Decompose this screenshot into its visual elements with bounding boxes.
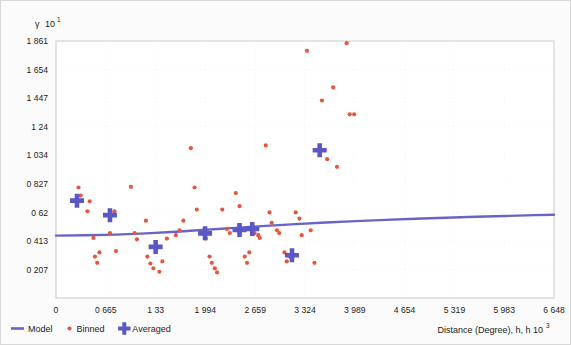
binned-point [135, 237, 139, 241]
binned-point [95, 261, 99, 265]
binned-point [215, 270, 219, 274]
x-tick-label: 4 654 [394, 305, 416, 315]
x-tick-label: 6 648 [543, 305, 565, 315]
y-tick-label: 1 24 [31, 122, 48, 132]
binned-point [108, 231, 112, 235]
binned-point [165, 237, 169, 241]
binned-point [192, 185, 196, 189]
y-tick-label: 1 034 [26, 150, 48, 160]
legend-label: Model [28, 324, 53, 334]
binned-point [151, 266, 155, 270]
plot-container: 00 6651 331 9942 6593 3243 9894 6545 319… [1, 1, 570, 344]
x-tick-label: 3 324 [294, 305, 316, 315]
binned-point [133, 231, 137, 235]
y-tick-label: 1 861 [26, 36, 48, 46]
binned-point [195, 208, 199, 212]
y-axis-title: γ [35, 19, 40, 29]
binned-point [237, 204, 241, 208]
binned-point [300, 233, 304, 237]
x-axis-title: Distance (Degree), h, h 10 [437, 325, 543, 335]
binned-point [345, 41, 349, 45]
binned-point [181, 219, 185, 223]
binned-point [331, 85, 335, 89]
binned-point [112, 209, 116, 213]
binned-point [297, 216, 301, 220]
y-axis-scale: 10 [45, 19, 55, 29]
binned-point [270, 221, 274, 225]
x-tick-label: 5 319 [444, 305, 466, 315]
binned-point [277, 231, 281, 235]
y-axis-tick-labels: 0 2070 4130 620 8271 0341 241 4471 6541 … [26, 36, 48, 274]
binned-point [348, 112, 352, 116]
variogram-plot: 00 6651 331 9942 6593 3243 9894 6545 319… [1, 1, 571, 345]
y-tick-label: 1 447 [26, 93, 48, 103]
y-tick-label: 0 62 [31, 208, 48, 218]
x-tick-label: 0 [54, 305, 59, 315]
variogram-chart-window: 00 6651 331 9942 6593 3243 9894 6545 319… [0, 0, 571, 345]
binned-point [294, 210, 298, 214]
binned-point [305, 49, 309, 53]
binned-point [267, 210, 271, 214]
binned-point [312, 261, 316, 265]
binned-point [320, 98, 324, 102]
x-tick-label: 5 983 [493, 305, 515, 315]
binned-point [243, 254, 247, 258]
y-tick-label: 0 207 [26, 265, 48, 275]
y-tick-label: 0 413 [26, 236, 48, 246]
binned-point [225, 227, 229, 231]
binned-point [93, 254, 97, 258]
binned-point [220, 208, 224, 212]
binned-point [160, 259, 164, 263]
binned-point [97, 250, 101, 254]
binned-point [264, 143, 268, 147]
legend-binned-dot-icon [67, 326, 71, 330]
binned-point [114, 249, 118, 253]
binned-point [285, 259, 289, 263]
legend-label: Averaged [132, 324, 170, 334]
legend-averaged-plus-icon [118, 322, 130, 334]
binned-point [245, 261, 249, 265]
binned-point [258, 236, 262, 240]
binned-point [85, 209, 89, 213]
binned-point [325, 157, 329, 161]
binned-point [247, 250, 251, 254]
y-tick-label: 0 827 [26, 179, 48, 189]
x-tick-label: 3 989 [344, 305, 366, 315]
binned-point [174, 233, 178, 237]
binned-point [145, 254, 149, 258]
binned-point [213, 266, 217, 270]
binned-point [76, 185, 80, 189]
binned-point [207, 254, 211, 258]
binned-point [129, 185, 133, 189]
x-tick-label: 1 994 [195, 305, 217, 315]
binned-point [335, 165, 339, 169]
binned-point [91, 236, 95, 240]
x-tick-label: 2 659 [244, 305, 266, 315]
y-axis-exponent: 1 [57, 16, 61, 23]
x-axis-exponent: 3 [546, 322, 550, 329]
binned-point [228, 231, 232, 235]
x-tick-label: 1 33 [147, 305, 164, 315]
binned-point [144, 219, 148, 223]
binned-point [234, 191, 238, 195]
chart-legend: ModelBinnedAveraged [11, 322, 171, 334]
binned-point [88, 199, 92, 203]
binned-point [309, 228, 313, 232]
binned-point [157, 270, 161, 274]
binned-point [352, 112, 356, 116]
x-axis-tick-labels: 00 6651 331 9942 6593 3243 9894 6545 319… [54, 305, 565, 315]
y-tick-label: 1 654 [26, 65, 48, 75]
binned-point [210, 261, 214, 265]
binned-point [189, 146, 193, 150]
binned-point [178, 228, 182, 232]
x-tick-label: 0 665 [95, 305, 117, 315]
binned-point [148, 261, 152, 265]
legend-label: Binned [77, 324, 105, 334]
